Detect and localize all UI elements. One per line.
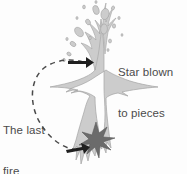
supernova-diagram: Star blown to pieces The last fire (0, 0, 187, 174)
debris-fragment-12 (89, 36, 92, 40)
label-star-blown-line2: to pieces (118, 107, 173, 121)
debris-fragment-7 (109, 39, 112, 43)
upper-arrow-head (68, 57, 94, 68)
label-last-fire-line1: The last (3, 124, 45, 138)
debris-fragment-6 (69, 40, 77, 47)
debris-fragment-8 (83, 5, 86, 9)
debris-fragment-5 (112, 24, 115, 28)
debris-fragment-17 (121, 34, 123, 37)
label-last-fire-line2: fire (3, 165, 45, 175)
debris-fragment-14 (76, 17, 78, 20)
label-star-blown-to-pieces: Star blown to pieces (118, 39, 173, 147)
debris-fragment-15 (107, 49, 109, 52)
debris-fragment-4 (73, 26, 85, 39)
label-star-blown-line1: Star blown (118, 66, 173, 80)
label-the-last-fire: The last fire (3, 97, 45, 174)
debris-fragment-0 (92, 5, 100, 15)
debris-fragment-9 (111, 6, 115, 11)
debris-fragment-10 (66, 51, 72, 56)
debris-fragment-11 (118, 16, 120, 19)
debris-fragment-16 (66, 37, 68, 40)
debris-fragment-18 (95, 1, 97, 4)
